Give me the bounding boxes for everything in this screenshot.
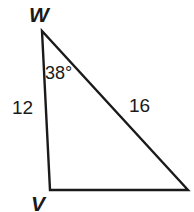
vertex-label-w: W [29,4,48,25]
side-length-label-wu: 16 [129,96,150,115]
side-length-label-wv: 12 [12,98,33,117]
vertex-label-v: V [31,193,45,212]
triangle-diagram: W V 38° 12 16 [0,0,194,212]
triangle-outline [42,31,188,190]
angle-label-w: 38° [45,64,72,82]
